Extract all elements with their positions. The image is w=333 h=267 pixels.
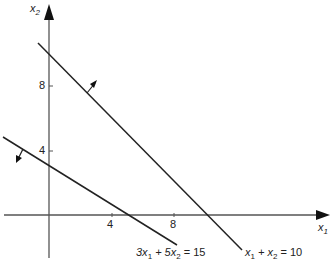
y-axis-arrowhead-icon xyxy=(44,4,54,20)
y-tick-label-8: 8 xyxy=(39,79,45,91)
x-tick-label-4: 4 xyxy=(107,218,113,230)
x-axis-arrowhead-icon xyxy=(316,210,330,220)
x-axis-label: x1 xyxy=(318,221,328,236)
equation-label-1: x1 + x2 = 10 xyxy=(245,246,302,261)
constraint-line-2 xyxy=(3,137,177,245)
equation-label-2: 3x1 + 5x2 = 15 xyxy=(136,246,205,261)
x-tick-label-8: 8 xyxy=(170,218,176,230)
normal-arrowhead-1-icon xyxy=(90,80,97,88)
y-tick-label-4: 4 xyxy=(39,144,45,156)
diagram-canvas xyxy=(0,0,333,267)
y-axis-label: x2 xyxy=(30,2,40,17)
constraint-line-1 xyxy=(38,43,242,250)
